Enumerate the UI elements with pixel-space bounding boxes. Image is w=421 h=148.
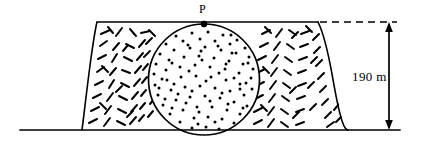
point-p-label: P (199, 2, 206, 17)
right-slope-line (318, 22, 348, 130)
point-p-marker (201, 21, 207, 27)
height-dimension-label: 190 m (352, 69, 387, 85)
slip-circle (149, 24, 260, 135)
hatch-left-zone (89, 27, 157, 126)
dimension-arrowhead-up (385, 22, 393, 32)
hatch-right-zone (254, 26, 341, 127)
figure-root: P 190 m (0, 0, 421, 148)
dimension-arrowhead-down (385, 120, 393, 130)
left-slope-line (82, 22, 97, 130)
